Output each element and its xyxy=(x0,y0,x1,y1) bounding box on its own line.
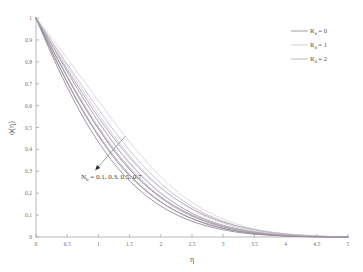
y-tick-label: 0.6 xyxy=(25,103,32,109)
y-tick-label: 0.5 xyxy=(25,125,32,131)
data-curve xyxy=(36,18,348,237)
y-tick-label: 0.4 xyxy=(25,146,32,152)
x-tick-label: 3.5 xyxy=(251,241,258,247)
x-tick-label: 4 xyxy=(284,241,287,247)
legend-label: Rd = 1 xyxy=(310,41,327,50)
chart-canvas: 00.511.522.533.544.55 00.10.20.30.40.50.… xyxy=(0,0,363,272)
y-axis-label: ϕ(η) xyxy=(7,121,16,135)
y-tick-label: 0.3 xyxy=(25,168,32,174)
y-axis-ticks: 00.10.20.30.40.50.60.70.80.91 xyxy=(25,15,39,240)
data-curve xyxy=(36,18,348,237)
data-curve xyxy=(36,18,348,237)
y-tick-label: 0.2 xyxy=(25,190,32,196)
data-curve xyxy=(36,18,348,237)
y-tick-label: 0.8 xyxy=(25,59,32,65)
legend-label: Rd = 2 xyxy=(310,55,327,64)
data-curve xyxy=(36,18,348,237)
data-curve xyxy=(36,18,348,237)
x-tick-label: 2.5 xyxy=(189,241,196,247)
data-curve xyxy=(36,18,348,237)
legend-group: Rd = 0Rd = 1Rd = 2 xyxy=(291,27,328,64)
x-tick-label: 1 xyxy=(97,241,100,247)
y-tick-label: 0.7 xyxy=(25,81,32,87)
data-curve xyxy=(36,18,348,237)
data-curve xyxy=(36,18,348,237)
x-tick-label: 1.5 xyxy=(126,241,133,247)
x-tick-label: 0.5 xyxy=(64,241,71,247)
x-tick-label: 4.5 xyxy=(313,241,320,247)
annotation-text: Nb = 0.1, 0.3, 0.5, 0.7 xyxy=(81,173,142,182)
data-curve xyxy=(36,18,348,237)
x-axis-label: η xyxy=(190,255,194,264)
y-tick-label: 0 xyxy=(29,234,32,240)
x-tick-label: 5 xyxy=(347,241,350,247)
y-tick-label: 0.9 xyxy=(25,37,32,43)
figure-container: 00.511.522.533.544.55 00.10.20.30.40.50.… xyxy=(0,0,363,272)
data-curve xyxy=(36,18,348,237)
y-tick-label: 1 xyxy=(29,15,32,21)
x-tick-label: 2 xyxy=(159,241,162,247)
x-tick-label: 3 xyxy=(222,241,225,247)
data-curves-group xyxy=(36,18,348,237)
axes-group xyxy=(36,18,348,237)
data-curve xyxy=(36,18,348,237)
y-tick-label: 0.1 xyxy=(25,212,32,218)
x-tick-label: 0 xyxy=(35,241,38,247)
legend-label: Rd = 0 xyxy=(310,27,328,36)
